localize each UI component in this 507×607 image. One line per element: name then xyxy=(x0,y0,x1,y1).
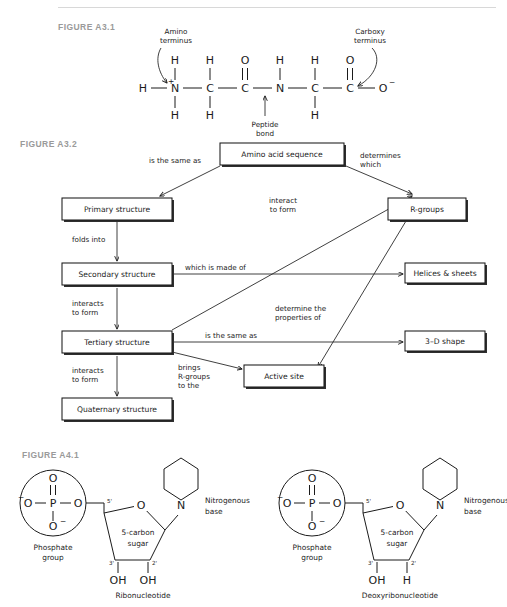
figure-a41-nucleotides: P O − O O O − Phosphate group 5' O xyxy=(0,0,507,607)
sugar-label-l1: 5-carbon xyxy=(122,528,155,537)
sugar-label-l2: sugar xyxy=(128,539,150,548)
base-label-l2: base xyxy=(205,507,223,516)
base-label-2-l2: base xyxy=(464,507,482,516)
carbon-3-prime-label: 3' xyxy=(109,560,114,566)
structure-deoxyribonucleotide: P O − O O O − Phosphate group 5' O 5-car… xyxy=(277,458,507,600)
phosphate-top-oxygen-2: O xyxy=(308,472,317,485)
phosphate-bottom-oxygen: O xyxy=(49,520,58,533)
carbon-5-prime-label-2: 5' xyxy=(366,498,371,504)
phosphate-left-oxygen: O xyxy=(24,497,33,510)
phosphate-left-oxygen-2: O xyxy=(283,497,292,510)
nitrogenous-base-ring xyxy=(164,458,198,500)
phosphate-group-label-2-l2: group xyxy=(301,553,323,562)
carbon-2-prime-label: 2' xyxy=(152,560,157,566)
phosphate-bottom-oxygen-2: O xyxy=(308,520,317,533)
base-label-2-l1: Nitrogenous xyxy=(464,496,507,505)
phosphate-left-charge-2: − xyxy=(277,493,283,502)
phosphorus-atom-2: P xyxy=(309,497,316,510)
phosphate-right-oxygen-2: O xyxy=(333,497,342,510)
c3-hydroxyl-group-2: OH xyxy=(369,574,386,587)
phosphate-left-charge: − xyxy=(18,493,24,502)
phosphate-right-oxygen: O xyxy=(74,497,83,510)
sugar-label-2-l2: sugar xyxy=(387,539,409,548)
ribonucleotide-name: Ribonucleotide xyxy=(115,591,171,600)
nitrogenous-base-ring-2 xyxy=(423,458,457,500)
sugar-label-2-l1: 5-carbon xyxy=(381,528,414,537)
c2-hydrogen-group: H xyxy=(403,574,411,587)
carbon-2-prime-label-2: 2' xyxy=(411,560,416,566)
phosphorus-atom: P xyxy=(50,497,57,510)
base-nitrogen-atom-2: N xyxy=(436,499,444,512)
base-nitrogen-atom: N xyxy=(177,499,185,512)
phosphate-top-oxygen: O xyxy=(49,472,58,485)
carbon-5-prime-label: 5' xyxy=(107,498,112,504)
c2-hydroxyl-group: OH xyxy=(140,574,157,587)
phosphate-group-label-2-l1: Phosphate xyxy=(293,543,332,552)
figure-sheet: FIGURE A3.1 H N + C C N C C O − xyxy=(0,0,507,607)
ring-oxygen-atom-2: O xyxy=(396,499,405,512)
c3-hydroxyl-group: OH xyxy=(110,574,127,587)
phosphate-bottom-charge-2: − xyxy=(319,517,325,526)
ring-oxygen-atom: O xyxy=(137,499,146,512)
phosphate-bottom-charge: − xyxy=(60,517,66,526)
phosphate-group-label-l2: group xyxy=(42,553,64,562)
base-label-l1: Nitrogenous xyxy=(205,496,250,505)
phosphate-group-label-l1: Phosphate xyxy=(34,543,73,552)
carbon-3-prime-label-2: 3' xyxy=(368,560,373,566)
structure-ribonucleotide: P O − O O O − Phosphate group 5' O xyxy=(18,458,250,600)
deoxyribonucleotide-name: Deoxyribonucleotide xyxy=(362,591,439,600)
